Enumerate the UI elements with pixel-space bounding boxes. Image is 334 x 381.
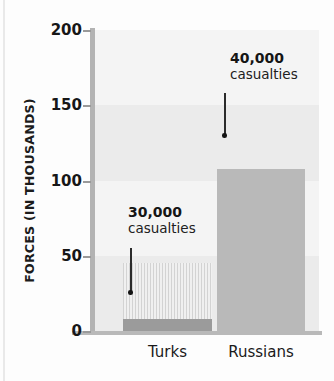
y-tick-mark-150	[83, 105, 91, 107]
y-tick-label-50: 50	[34, 249, 82, 264]
annotation-turks-label: casualties	[128, 220, 196, 236]
annotation-russians-value: 40,000	[230, 50, 298, 66]
leader-dot-russians	[222, 133, 227, 138]
bar-chart-figure: FORCES (IN THOUSANDS) 200 150 100 50 0 3…	[0, 0, 334, 381]
y-tick-mark-50	[83, 256, 91, 258]
annotation-russians-casualties: 40,000 casualties	[230, 50, 298, 82]
y-tick-mark-100	[83, 181, 91, 183]
bar-turks-casualties-base	[123, 319, 212, 331]
leader-dot-turks	[128, 290, 133, 295]
annotation-turks-casualties: 30,000 casualties	[128, 204, 196, 236]
y-tick-label-200: 200	[34, 23, 82, 38]
leader-line-turks	[130, 248, 132, 292]
bar-turks-forces	[123, 263, 212, 320]
annotation-turks-value: 30,000	[128, 204, 196, 220]
x-axis-line	[72, 331, 322, 335]
y-tick-label-150: 150	[34, 98, 82, 113]
y-tick-mark-200	[83, 30, 91, 32]
x-category-label-russians: Russians	[213, 343, 309, 361]
annotation-russians-label: casualties	[230, 66, 298, 82]
y-tick-label-100: 100	[34, 174, 82, 189]
bar-russians-forces	[217, 169, 305, 331]
y-tick-label-0: 0	[34, 324, 82, 339]
page-edge-rule	[3, 0, 5, 381]
y-tick-mark-0	[83, 331, 91, 333]
leader-line-russians	[224, 93, 226, 135]
x-category-label-turks: Turks	[123, 343, 212, 361]
